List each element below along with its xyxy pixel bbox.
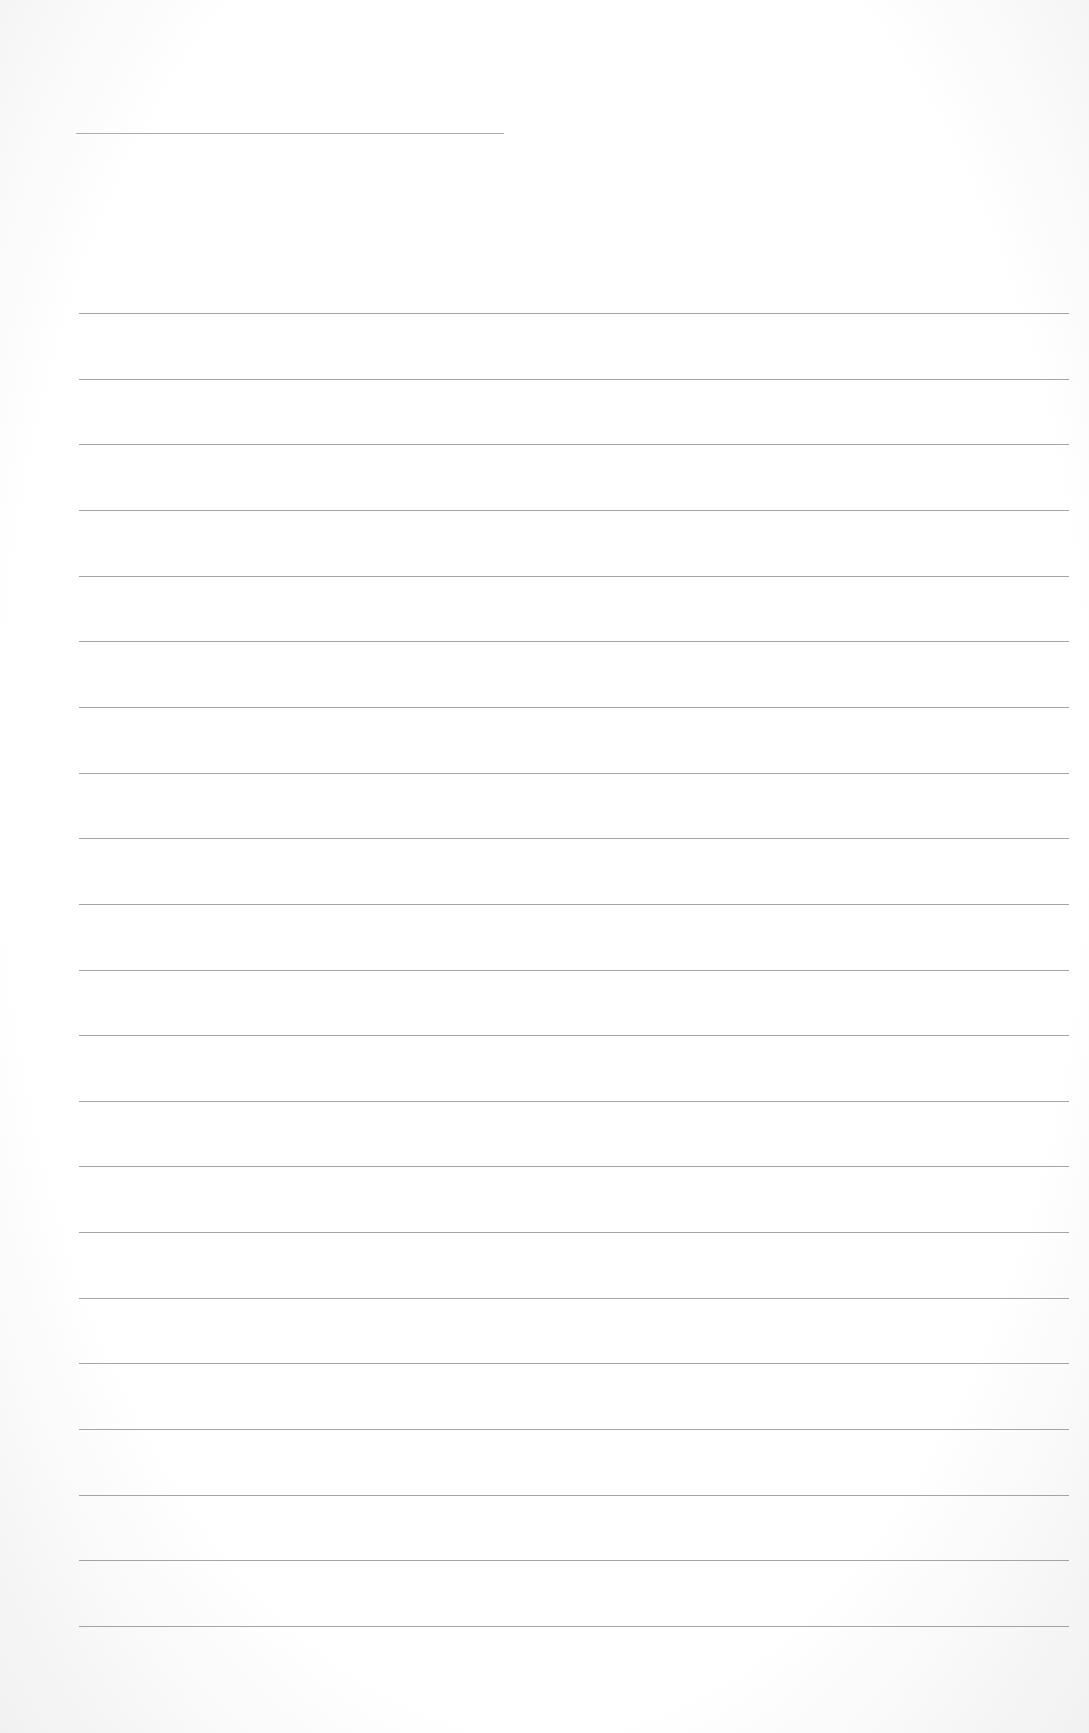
ruled-line xyxy=(79,576,1069,577)
ruled-line xyxy=(79,1101,1069,1102)
ruled-line xyxy=(79,1166,1069,1167)
ruled-line xyxy=(79,1429,1069,1430)
ruled-line xyxy=(79,313,1069,314)
ruled-line xyxy=(79,1232,1069,1233)
header-name-line xyxy=(76,133,504,134)
ruled-line xyxy=(79,1363,1069,1364)
ruled-paper-sheet xyxy=(0,0,1089,1733)
ruled-line xyxy=(79,641,1069,642)
ruled-line xyxy=(79,838,1069,839)
ruled-line xyxy=(79,379,1069,380)
ruled-line xyxy=(79,904,1069,905)
ruled-line xyxy=(79,970,1069,971)
ruled-line xyxy=(79,1560,1069,1561)
ruled-line xyxy=(79,444,1069,445)
ruled-line xyxy=(79,510,1069,511)
ruled-line xyxy=(79,707,1069,708)
ruled-line xyxy=(79,773,1069,774)
ruled-line xyxy=(79,1495,1069,1496)
ruled-line xyxy=(79,1298,1069,1299)
ruled-line xyxy=(79,1626,1069,1627)
ruled-line xyxy=(79,1035,1069,1036)
